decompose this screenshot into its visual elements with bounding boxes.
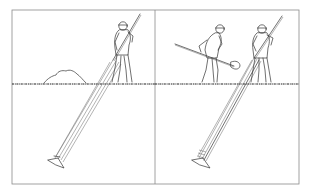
right-panel [155,16,299,168]
figure-canvas [0,0,311,191]
dirt-pile [44,70,86,83]
worker-with-pole-right [251,16,283,82]
diagonal-pipe-right [198,58,261,161]
diagonal-pipe-left [55,60,121,162]
worker-with-shovel [175,25,240,82]
left-panel [12,14,155,168]
pipe-tip-left [48,156,64,168]
pipe-tip-right [192,158,210,168]
